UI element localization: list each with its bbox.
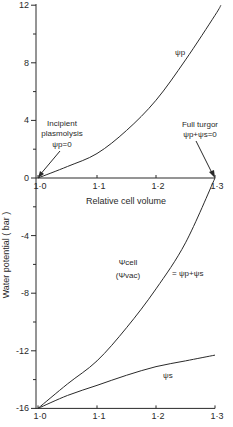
x-tick-label: 1·3 [210, 181, 223, 191]
x-tick-label: 1·1 [92, 411, 105, 421]
svg-text:plasmolysis: plasmolysis [41, 129, 82, 138]
x-tick-label: 1·2 [151, 411, 164, 421]
psi-vac-label: (Ψvac) [116, 271, 141, 280]
y-tick-label: 0 [24, 173, 29, 183]
y-tick-label: -16 [16, 403, 29, 413]
svg-text:Incipient: Incipient [47, 119, 78, 128]
x-tick-label: 1·2 [151, 181, 164, 191]
psi-sum-label: = ψp+ψs [172, 269, 203, 278]
psi-cell-curve [38, 178, 215, 408]
psi-p-curve [38, 5, 221, 178]
y-tick-label: 4 [24, 115, 29, 125]
x-axis-label: Relative cell volume [86, 196, 166, 206]
psi-s-label: ψs [163, 371, 173, 380]
y-tick-label: -4 [21, 231, 29, 241]
y-tick-label: 8 [24, 58, 29, 68]
arrow-head-icon [209, 170, 215, 178]
y-tick-label: 12 [19, 0, 29, 10]
y-tick-label: -8 [21, 288, 29, 298]
curves [38, 5, 221, 408]
full-turgor-annotation: Full turgor ψp+ψs=0 [182, 120, 218, 178]
water-potential-chart: 12840-4-8-12-16 1·01·11·21·31·01·11·21·3… [0, 0, 233, 427]
x-tick-label: 1·3 [210, 411, 223, 421]
x-tick-label: 1·0 [33, 411, 46, 421]
y-tick-label: -12 [16, 346, 29, 356]
x-axes: 1·01·11·21·31·01·11·21·3 [33, 175, 223, 421]
psi-cell-label: Ψcell [119, 258, 138, 267]
svg-text:ψp=0: ψp=0 [52, 140, 72, 149]
x-tick-label: 1·0 [33, 181, 46, 191]
y-ticks: 12840-4-8-12-16 [16, 0, 36, 413]
y-axis-label: Water potential ( bar ) [1, 212, 11, 299]
svg-text:Full turgor: Full turgor [182, 120, 218, 129]
psi-p-label: ψp [175, 48, 186, 57]
psi-s-curve [38, 355, 215, 408]
svg-text:ψp+ψs=0: ψp+ψs=0 [183, 130, 217, 139]
x-tick-label: 1·1 [92, 181, 105, 191]
